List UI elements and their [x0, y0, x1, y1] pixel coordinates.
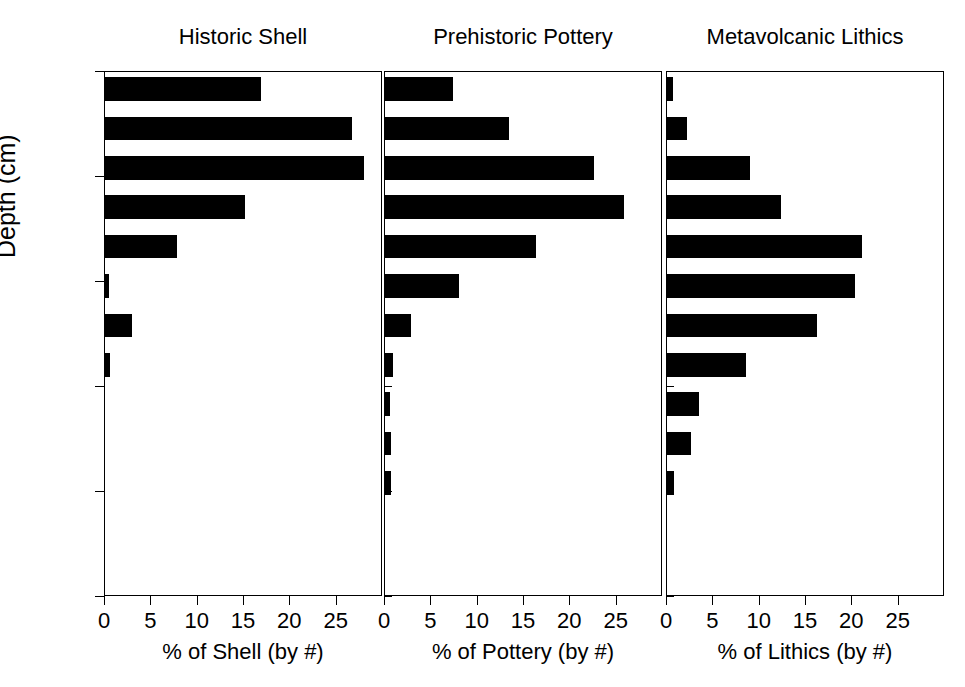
- x-axis-tick-mark: [430, 596, 431, 605]
- x-axis-tick-label: 0: [660, 610, 672, 632]
- bar: [385, 77, 453, 101]
- figure-container: Depth (cm) 020406080100 Historic Shell05…: [0, 0, 965, 687]
- bar: [667, 117, 687, 141]
- x-axis-tick-label: 25: [603, 610, 627, 632]
- x-axis-tick-label: 20: [557, 610, 581, 632]
- bar: [385, 274, 459, 298]
- bar: [385, 195, 624, 219]
- x-axis-tick-label: 15: [231, 610, 255, 632]
- x-axis-tick-label: 20: [277, 610, 301, 632]
- x-axis-tick-mark: [759, 596, 760, 605]
- x-axis-tick-mark: [384, 596, 385, 605]
- plot-area: [384, 71, 662, 596]
- x-axis-tick-label: 0: [378, 610, 390, 632]
- x-axis-tick-label: 5: [144, 610, 156, 632]
- bar: [385, 432, 391, 456]
- y-axis-inner-tick: [666, 386, 674, 387]
- x-axis-title: % of Pottery (by #): [384, 639, 662, 665]
- x-axis-tick-label: 15: [793, 610, 817, 632]
- bar: [667, 156, 750, 180]
- bar: [105, 314, 132, 338]
- x-axis-tick-mark: [851, 596, 852, 605]
- panel-title: Prehistoric Pottery: [384, 24, 662, 50]
- y-axis-tick-mark: [95, 71, 104, 72]
- y-axis-inner-tick: [384, 491, 392, 492]
- y-axis-inner-tick: [384, 176, 392, 177]
- bar: [667, 195, 781, 219]
- x-axis-tick-mark: [243, 596, 244, 605]
- bar: [105, 353, 110, 377]
- x-axis-tick-mark: [805, 596, 806, 605]
- bar: [667, 392, 699, 416]
- y-axis-inner-tick: [666, 281, 674, 282]
- y-axis-tick-mark: [95, 386, 104, 387]
- x-axis-tick-label: 25: [323, 610, 347, 632]
- plot-area: [104, 71, 382, 596]
- bar: [667, 353, 746, 377]
- x-axis-tick-mark: [289, 596, 290, 605]
- x-axis-tick-label: 10: [746, 610, 770, 632]
- x-axis-tick-mark: [616, 596, 617, 605]
- y-axis-tick-mark: [95, 596, 104, 597]
- bar: [667, 274, 855, 298]
- plot-area: [666, 71, 944, 596]
- y-axis-inner-tick: [384, 596, 392, 597]
- x-axis-tick-label: 5: [706, 610, 718, 632]
- y-axis-inner-tick: [384, 281, 392, 282]
- x-axis-tick-mark: [104, 596, 105, 605]
- panel-title: Metavolcanic Lithics: [666, 24, 944, 50]
- panel-3: Metavolcanic Lithics0510152025% of Lithi…: [666, 0, 944, 687]
- x-axis-title: % of Shell (by #): [104, 639, 382, 665]
- y-axis-tick-mark: [95, 491, 104, 492]
- x-axis-tick-label: 5: [424, 610, 436, 632]
- bar: [385, 353, 393, 377]
- bar: [667, 314, 817, 338]
- x-axis-tick-mark: [336, 596, 337, 605]
- x-axis-tick-mark: [712, 596, 713, 605]
- bar: [105, 235, 177, 259]
- x-axis-tick-mark: [197, 596, 198, 605]
- x-axis-tick-mark: [150, 596, 151, 605]
- x-axis-tick-label: 0: [98, 610, 110, 632]
- panel-2: Prehistoric Pottery0510152025% of Potter…: [384, 0, 662, 687]
- x-axis-tick-label: 15: [511, 610, 535, 632]
- y-axis-tick-labels: 020406080100: [0, 0, 100, 687]
- x-axis-tick-label: 10: [464, 610, 488, 632]
- y-axis-inner-tick: [666, 491, 674, 492]
- bar: [667, 432, 691, 456]
- bar: [667, 77, 673, 101]
- x-axis-tick-mark: [569, 596, 570, 605]
- x-axis-tick-label: 25: [885, 610, 909, 632]
- bar: [385, 235, 536, 259]
- y-axis-tick-mark: [95, 176, 104, 177]
- x-axis-tick-mark: [666, 596, 667, 605]
- bar: [105, 117, 352, 141]
- bar: [105, 156, 364, 180]
- x-axis-tick-label: 20: [839, 610, 863, 632]
- x-axis-tick-mark: [898, 596, 899, 605]
- y-axis-inner-tick: [666, 176, 674, 177]
- y-axis-inner-tick: [384, 386, 392, 387]
- y-axis-inner-tick: [666, 596, 674, 597]
- panel-1: Historic Shell0510152025% of Shell (by #…: [104, 0, 382, 687]
- y-axis-tick-mark: [95, 281, 104, 282]
- x-axis-tick-mark: [523, 596, 524, 605]
- x-axis-tick-label: 10: [184, 610, 208, 632]
- panel-title: Historic Shell: [104, 24, 382, 50]
- bar: [385, 392, 390, 416]
- bar: [385, 156, 594, 180]
- x-axis-title: % of Lithics (by #): [666, 639, 944, 665]
- bar: [105, 274, 109, 298]
- bar: [385, 314, 411, 338]
- bar: [105, 195, 245, 219]
- bar: [105, 77, 261, 101]
- bar: [385, 117, 509, 141]
- bar: [667, 235, 862, 259]
- x-axis-tick-mark: [477, 596, 478, 605]
